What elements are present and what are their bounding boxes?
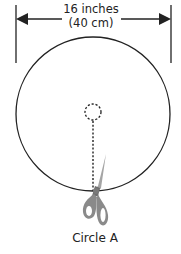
diagram-caption: Circle A — [55, 232, 135, 245]
dimension-label-cm: (40 cm) — [55, 17, 127, 30]
arrowhead-left-icon — [16, 13, 28, 25]
dimension-label-inches: 16 inches — [55, 3, 127, 16]
circle-pattern-diagram — [0, 0, 181, 254]
arrowhead-right-icon — [159, 13, 171, 25]
dashed-circle-icon — [85, 104, 101, 120]
